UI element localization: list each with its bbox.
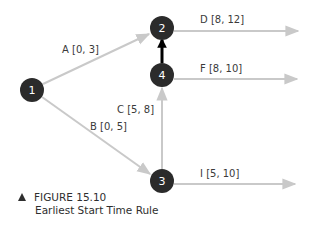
node-1: 1 bbox=[20, 78, 44, 102]
figure-number: FIGURE 15.10 bbox=[34, 191, 106, 203]
edge-a-label: A [0, 3] bbox=[62, 44, 99, 55]
node-2-label: 2 bbox=[159, 22, 166, 35]
edge-i-label: I [5, 10] bbox=[200, 168, 239, 179]
edge-a-arrow bbox=[43, 34, 149, 84]
edge-f: F [8, 10] bbox=[174, 63, 297, 79]
node-2: 2 bbox=[150, 16, 174, 40]
figure-title: Earliest Start Time Rule bbox=[18, 204, 158, 217]
figure-caption: FIGURE 15.10 Earliest Start Time Rule bbox=[18, 191, 158, 217]
node-4: 4 bbox=[150, 63, 174, 87]
node-3-label: 3 bbox=[159, 175, 166, 188]
node-4-label: 4 bbox=[159, 69, 166, 82]
caption-line-1: FIGURE 15.10 bbox=[18, 191, 158, 204]
node-3: 3 bbox=[150, 169, 174, 193]
edge-d-label: D [8, 12] bbox=[200, 14, 244, 25]
triangle-up-icon bbox=[18, 193, 26, 201]
edge-d: D [8, 12] bbox=[174, 14, 298, 31]
node-1-label: 1 bbox=[29, 84, 36, 97]
edge-c-label: C [5, 8] bbox=[117, 104, 154, 115]
edge-i: I [5, 10] bbox=[174, 168, 295, 184]
edge-b-label: B [0, 5] bbox=[90, 121, 127, 132]
edge-f-label: F [8, 10] bbox=[200, 63, 242, 74]
edge-a: A [0, 3] bbox=[43, 34, 149, 84]
